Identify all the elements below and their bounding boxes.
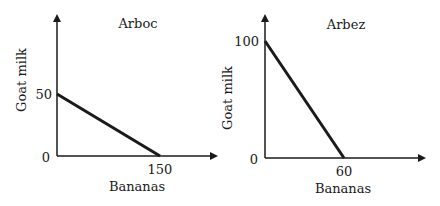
chart-arbez: Arbez 100 0 60 Bananas Goat milk: [220, 16, 424, 196]
origin-label: 0: [42, 150, 50, 165]
y-tick-label: 100: [234, 34, 259, 49]
x-tick-label: 150: [148, 162, 173, 177]
chart-title: Arboc: [117, 16, 157, 31]
origin-label: 0: [250, 152, 258, 167]
chart-title: Arbez: [326, 17, 366, 32]
x-axis-label: Bananas: [109, 179, 165, 194]
ppf-line: [265, 41, 344, 158]
ppf-charts: Arboc 50 0 150 Bananas Goat milk Arbez 1…: [0, 0, 440, 206]
y-tick-label: 50: [35, 87, 52, 102]
y-axis-label: Goat milk: [220, 66, 235, 130]
x-tick-label: 60: [336, 164, 353, 179]
ppf-line: [57, 94, 160, 156]
x-axis-label: Bananas: [315, 181, 371, 196]
y-axis-label: Goat milk: [14, 48, 29, 112]
chart-arboc: Arboc 50 0 150 Bananas Goat milk: [14, 16, 216, 194]
